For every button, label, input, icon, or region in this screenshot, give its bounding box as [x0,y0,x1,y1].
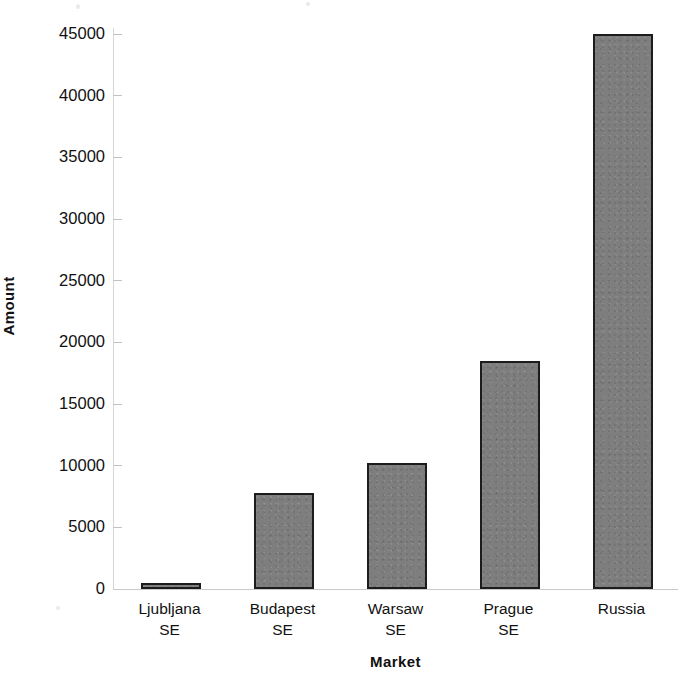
bar [254,493,314,589]
bar [480,361,540,589]
x-axis-category-line-1: Warsaw [339,598,452,619]
x-axis-category-line-1: Ljubljana [113,598,226,619]
y-axis-tick-label: 35000 [22,148,105,164]
x-axis-category-label: LjubljanaSE [113,598,226,640]
y-axis-title: Amount [0,246,22,366]
y-axis-tick-label: 20000 [22,333,105,349]
y-axis-tick-label: 10000 [22,457,105,473]
x-axis-category-line-1: Budapest [226,598,339,619]
y-axis-tick-label: 40000 [22,87,105,103]
plot-area [113,28,678,589]
y-axis-tick-label: 45000 [22,25,105,41]
y-axis-tick-label: 30000 [22,210,105,226]
bar [141,583,201,589]
x-axis-category-line-2: SE [339,619,452,640]
x-axis-title: Market [113,653,678,670]
x-axis-line [113,589,678,590]
y-axis-tick-label: 25000 [22,272,105,288]
bar [593,34,653,589]
x-axis-category-label: PragueSE [452,598,565,640]
bar [367,463,427,589]
x-axis-category-line-2: SE [452,619,565,640]
x-axis-category-line-1: Prague [452,598,565,619]
bar-chart: Amount 050001000015000200002500030000350… [0,0,678,700]
y-axis-tick-label: 15000 [22,395,105,411]
scan-speck [56,606,60,610]
x-axis-category-label: WarsawSE [339,598,452,640]
scan-speck [76,4,80,9]
x-axis-category-line-2: SE [113,619,226,640]
x-axis-category-line-2: SE [226,619,339,640]
x-axis-category-line-1: Russia [565,598,678,619]
y-axis-tick-label: 5000 [22,518,105,534]
x-axis-category-label: Russia [565,598,678,619]
scan-speck [306,2,310,6]
x-axis-category-label: BudapestSE [226,598,339,640]
y-axis-tick-label: 0 [22,580,105,596]
